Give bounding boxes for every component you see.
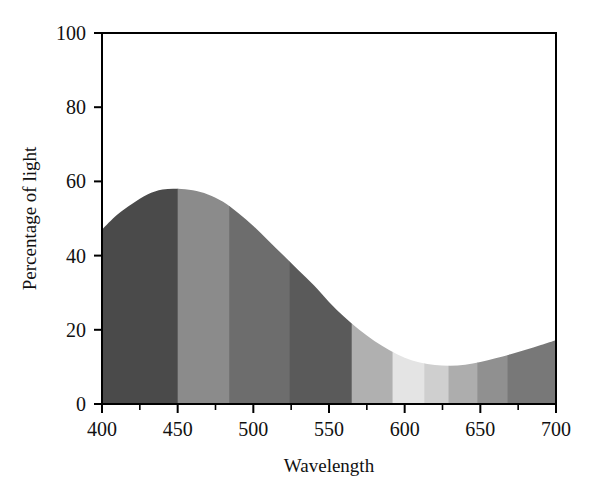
y-axis-tick-labels: 020406080100 bbox=[56, 22, 86, 415]
x-tick-label-700: 700 bbox=[541, 418, 571, 440]
y-axis-ticks bbox=[94, 33, 102, 404]
x-axis-ticks bbox=[102, 404, 556, 413]
x-axis-title: Wavelength bbox=[284, 455, 375, 476]
y-tick-label-40: 40 bbox=[66, 245, 86, 267]
y-tick-label-0: 0 bbox=[76, 393, 86, 415]
x-axis-tick-labels: 400450500550600650700 bbox=[87, 418, 571, 440]
x-tick-label-650: 650 bbox=[465, 418, 495, 440]
y-tick-label-100: 100 bbox=[56, 22, 86, 44]
x-tick-label-600: 600 bbox=[390, 418, 420, 440]
x-tick-label-500: 500 bbox=[238, 418, 268, 440]
y-tick-label-60: 60 bbox=[66, 170, 86, 192]
y-tick-label-20: 20 bbox=[66, 319, 86, 341]
y-axis-title: Percentage of light bbox=[19, 146, 40, 290]
x-tick-label-400: 400 bbox=[87, 418, 117, 440]
chart-figure: 400450500550600650700 020406080100 Wavel… bbox=[0, 0, 607, 497]
spectral-reflectance-chart: 400450500550600650700 020406080100 Wavel… bbox=[0, 0, 607, 497]
y-tick-label-80: 80 bbox=[66, 96, 86, 118]
x-tick-label-450: 450 bbox=[163, 418, 193, 440]
x-tick-label-550: 550 bbox=[314, 418, 344, 440]
